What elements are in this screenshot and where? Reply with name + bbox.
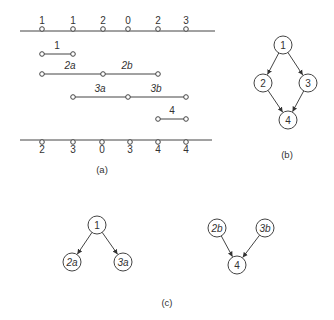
top-axis-point [126,27,131,32]
edge-1-to-3 [288,53,303,76]
top-axis-point [184,27,189,32]
interval-endpoint [101,72,106,77]
interval-endpoint [40,72,45,77]
interval-label: 3b [150,83,162,94]
interval-endpoint [71,52,76,57]
node-label-1: 1 [94,220,100,231]
panel-c-split-graphs: 12a3a2b3b4 [63,216,274,274]
bottom-axis-label: 3 [70,144,76,155]
node-label-3a: 3a [117,257,129,268]
edge-1-to-3a [102,232,117,254]
left-graph: 12a3a [63,216,132,271]
top-axis-label: 2 [100,15,106,26]
right-graph: 2b3b4 [208,219,274,274]
edge-2-to-4 [268,90,283,112]
top-axis-label: 0 [125,15,131,26]
node-label-3: 3 [305,78,311,89]
edge-1-to-2a [77,232,92,254]
bottom-axis-label: 4 [183,144,189,155]
node-label-2a: 2a [65,257,78,268]
edge-3b-to-4 [243,235,260,257]
top-axis-label: 2 [155,15,161,26]
edge-1-to-2 [267,53,278,75]
top-axis-label: 1 [39,15,45,26]
edge-3-to-4 [293,91,304,112]
interval-label: 3a [94,83,106,94]
top-axis-point [101,27,106,32]
interval-endpoint [156,72,161,77]
node-label-1: 1 [280,40,286,51]
bottom-axis-label: 3 [127,144,133,155]
top-axis-label: 1 [70,15,76,26]
interval-endpoint [156,117,161,122]
node-label-2: 2 [260,78,266,89]
interval-label: 2a [63,60,76,71]
interval-endpoint [184,95,189,100]
bottom-axis-label: 0 [99,144,105,155]
interval-label: 4 [169,105,175,116]
node-label-4: 4 [285,115,291,126]
panel-a-interval-diagram: 11202323034412a2b3a3b4 [20,15,215,155]
node-label-3b: 3b [259,223,271,234]
interval-endpoint [184,117,189,122]
node-label-4: 4 [234,260,240,271]
interval-endpoint [71,95,76,100]
bottom-axis-label: 2 [39,144,45,155]
top-axis-label: 3 [183,15,189,26]
interval-label: 2b [120,60,133,71]
figure-canvas: 11202323034412a2b3a3b4 1234 12a3a2b3b4 (… [0,0,334,320]
panel-b-dependency-graph: 1234 [254,36,317,129]
interval-endpoint [40,52,45,57]
caption-a: (a) [96,164,108,175]
edge-2b-to-4 [221,236,232,257]
top-axis-point [71,27,76,32]
caption-b: (b) [281,149,293,160]
top-axis-point [40,27,45,32]
interval-label: 1 [54,40,60,51]
top-axis-point [156,27,161,32]
interval-endpoint [126,95,131,100]
caption-c: (c) [161,297,172,308]
bottom-axis-label: 4 [155,144,161,155]
node-label-2b: 2b [210,223,223,234]
